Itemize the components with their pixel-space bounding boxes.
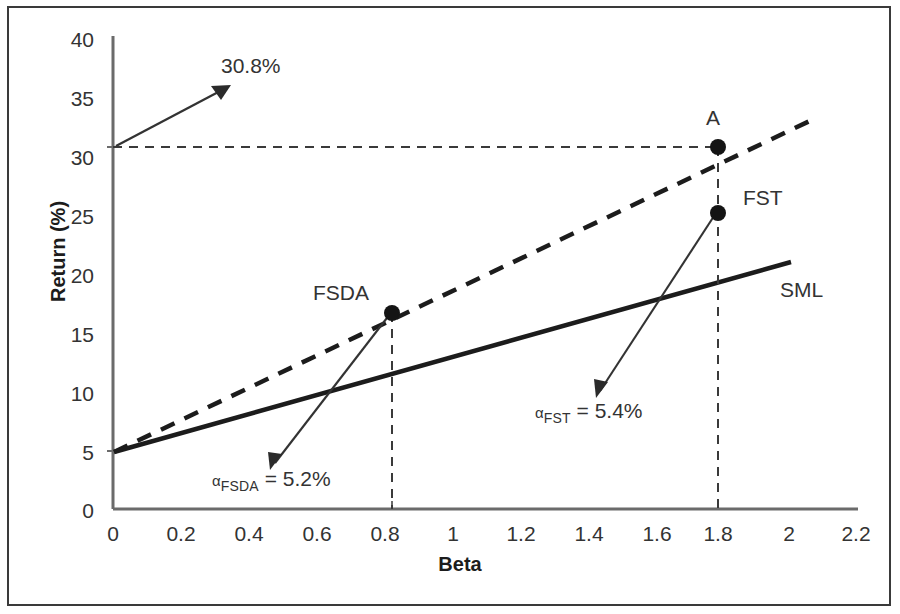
callout-arrow-30-8 [116,85,231,146]
point-label-a: A [706,106,720,130]
alpha-value-fsda: = 5.2% [259,467,331,490]
x-axis-title: Beta [420,553,500,576]
chart-figure: 40 35 30 25 20 15 10 5 0 0 0.2 0.4 0.6 0… [0,0,900,614]
point-label-fst: FST [743,186,783,210]
series-label-sml: SML [780,278,823,302]
y-tick-label-0: 0 [48,499,94,523]
x-tick-label-0: 0 [83,522,143,546]
y-tick-label-5: 5 [48,441,94,465]
data-point-fsda [384,305,400,321]
x-tick-label-1-2: 1.2 [491,522,551,546]
annotation-alpha-fst: αFST = 5.4% [535,399,643,426]
alpha-subscript-fst: FST [544,410,571,426]
y-tick-label-35: 35 [48,87,94,111]
x-tick-label-1-6: 1.6 [627,522,687,546]
y-tick-label-10: 10 [48,382,94,406]
x-tick-label-0-2: 0.2 [151,522,211,546]
alpha-symbol: α [212,472,221,489]
x-tick-label-0-4: 0.4 [219,522,279,546]
x-tick-label-1: 1 [423,522,483,546]
y-tick-label-30: 30 [48,146,94,170]
alpha-symbol: α [535,404,544,421]
x-tick-label-1-4: 1.4 [559,522,619,546]
x-tick-label-0-8: 0.8 [355,522,415,546]
y-tick-label-15: 15 [48,323,94,347]
x-tick-label-2-2: 2.2 [826,522,886,546]
x-tick-label-0-6: 0.6 [287,522,347,546]
data-point-fst [710,205,726,221]
annotation-alpha-fsda: αFSDA = 5.2% [212,467,331,494]
y-axis-title: Return (%) [47,182,70,322]
point-label-fsda: FSDA [313,281,369,305]
alpha-value-fst: = 5.4% [571,399,643,422]
alpha-subscript-fsda: FSDA [221,478,259,494]
callout-arrow-alpha-fst [594,213,716,398]
x-tick-label-2: 2 [759,522,819,546]
y-tick-label-40: 40 [48,28,94,52]
x-tick-label-1-8: 1.8 [688,522,748,546]
annotation-value-callout: 30.8% [221,54,281,78]
callout-arrow-alpha-fsda [268,314,390,470]
data-point-a [710,139,726,155]
